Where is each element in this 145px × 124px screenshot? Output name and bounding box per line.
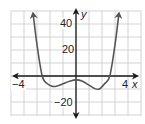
y-tick-label-40: 40: [59, 18, 73, 29]
x-tick-label-4: 4: [121, 79, 129, 90]
x-axis-label: x: [131, 79, 139, 90]
y-tick-label-20: 20: [61, 44, 75, 55]
x-tick-label-neg4: −4: [11, 79, 26, 90]
y-axis-label: y: [80, 9, 88, 20]
y-tick-label-neg20: −20: [53, 97, 74, 108]
